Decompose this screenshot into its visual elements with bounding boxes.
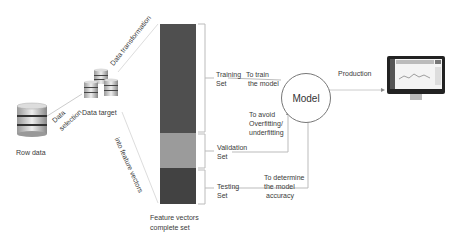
testing-purpose-2: the model bbox=[264, 182, 295, 191]
training-set-name-2: Set bbox=[216, 79, 227, 88]
training-purpose-2: the model bbox=[248, 79, 279, 88]
model-node: Model bbox=[281, 73, 331, 123]
testing-set-name-1: Testing bbox=[217, 182, 239, 191]
validation-set-bar bbox=[160, 133, 196, 168]
training-purpose-1: To train bbox=[246, 70, 269, 79]
database-stack-icon bbox=[82, 68, 122, 106]
validation-set-name-2: Set bbox=[217, 152, 228, 161]
monitor-dashboard-icon bbox=[387, 56, 445, 94]
testing-set-name-2: Set bbox=[217, 191, 228, 200]
feature-vectors-label-1: Feature vectors bbox=[150, 213, 199, 222]
testing-purpose-3: accuracy bbox=[266, 191, 294, 200]
feature-vectors-label-2: complete set bbox=[150, 223, 190, 232]
testing-purpose-1: To determine bbox=[264, 173, 304, 182]
monitor-stand bbox=[410, 94, 422, 100]
testing-set-bar bbox=[160, 168, 196, 204]
validation-purpose-3: underfitting bbox=[249, 128, 284, 137]
production-label: Production bbox=[338, 69, 371, 78]
data-target-label: Data target bbox=[82, 108, 117, 117]
model-label: Model bbox=[292, 93, 319, 104]
training-set-bar bbox=[160, 24, 196, 133]
validation-purpose-2: Overfitting/ bbox=[249, 119, 283, 128]
database-icon bbox=[16, 102, 48, 142]
validation-purpose-1: To avoid bbox=[249, 110, 275, 119]
raw-data-label: Row data bbox=[16, 148, 46, 157]
training-set-name-1: Training bbox=[216, 70, 241, 79]
validation-set-name-1: Validation bbox=[217, 143, 247, 152]
